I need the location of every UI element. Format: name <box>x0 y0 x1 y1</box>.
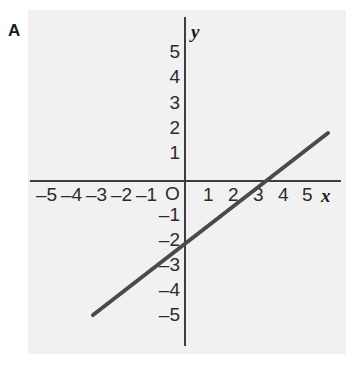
x-tick-label-pos-1: 1 <box>203 185 214 204</box>
x-tick-label-pos-5: 5 <box>302 185 313 204</box>
y-tick-label-neg-3: –3 <box>150 255 180 274</box>
x-tick-label-neg-5: –1 <box>136 185 157 204</box>
x-tick-label-neg-2: –4 <box>61 185 82 204</box>
y-tick-label-pos-4: 2 <box>160 118 180 137</box>
x-tick-label-pos-4: 4 <box>278 185 289 204</box>
y-tick-label-neg-1: –1 <box>150 205 180 224</box>
y-axis-label: y <box>191 22 199 41</box>
plot-background <box>28 10 346 354</box>
origin-label: O <box>165 184 180 203</box>
panel-letter: A <box>8 22 20 39</box>
y-tick-label-neg-2: –2 <box>150 230 180 249</box>
x-tick-label-neg-3: –3 <box>86 185 107 204</box>
graph-figure: A –5–4–3–2–11234554321–1–2–3–4–5 O y x <box>0 0 364 365</box>
x-tick-label-pos-3: 3 <box>253 185 264 204</box>
x-axis-label: x <box>321 186 331 205</box>
y-tick-label-pos-1: 5 <box>160 42 180 61</box>
y-tick-label-neg-4: –4 <box>150 280 180 299</box>
x-tick-label-neg-1: –5 <box>36 185 57 204</box>
x-tick-label-pos-2: 2 <box>228 185 239 204</box>
y-tick-label-neg-5: –5 <box>150 305 180 324</box>
x-tick-label-neg-4: –2 <box>111 185 132 204</box>
y-tick-label-pos-3: 3 <box>160 93 180 112</box>
y-axis-line <box>184 17 186 346</box>
y-tick-label-pos-5: 1 <box>160 143 180 162</box>
y-tick-label-pos-2: 4 <box>160 67 180 86</box>
